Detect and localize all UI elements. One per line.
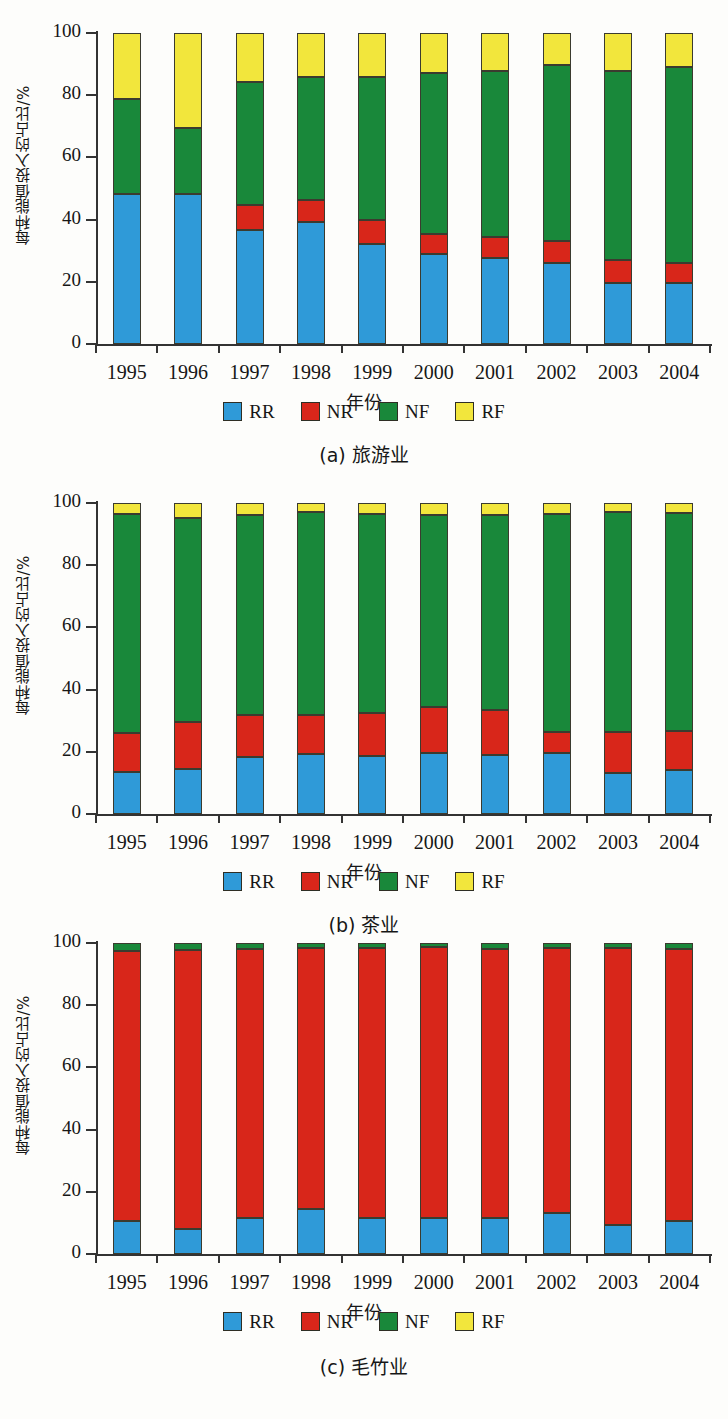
- x-tick: [279, 1254, 281, 1263]
- bar-1996: [174, 943, 202, 1254]
- bar-segment-nf: [665, 943, 693, 949]
- panel-tea: 每种能值投入的占比/% 0204060801001995199619971998…: [0, 470, 728, 940]
- x-tick-label: 2004: [644, 361, 714, 383]
- x-tick: [525, 1254, 527, 1263]
- bar-1999: [358, 943, 386, 1254]
- legend-item-rf: RF: [455, 402, 504, 421]
- bar-2001: [481, 943, 509, 1254]
- bar-segment-nr: [113, 733, 141, 772]
- legend-c: RRNRNFRF: [0, 1312, 728, 1331]
- bar-segment-nf: [420, 515, 448, 707]
- x-tick: [525, 814, 527, 823]
- bar-segment-nf: [113, 943, 141, 951]
- y-tick-label: 100: [53, 931, 82, 951]
- bar-segment-nf: [236, 515, 264, 715]
- bar-segment-rf: [604, 503, 632, 512]
- bar-segment-rr: [236, 230, 264, 344]
- y-tick-label: 100: [53, 491, 82, 511]
- bar-2001: [481, 503, 509, 814]
- bar-2000: [420, 33, 448, 344]
- bar-1995: [113, 943, 141, 1254]
- x-tick-label: 1995: [92, 1271, 162, 1293]
- bar-segment-rr: [174, 1229, 202, 1254]
- legend-b: RRNRNFRF: [0, 872, 728, 891]
- bar-segment-nr: [174, 722, 202, 769]
- bar-segment-rr: [236, 757, 264, 814]
- panel-tourism: 每种能值投入的占比/% 0204060801001995199619971998…: [0, 0, 728, 470]
- bar-segment-rf: [236, 503, 264, 515]
- bar-segment-nr: [420, 947, 448, 1218]
- bar-segment-nr: [297, 948, 325, 1209]
- bar-segment-nf: [358, 943, 386, 948]
- bar-segment-rr: [113, 194, 141, 344]
- y-axis-line: [96, 31, 98, 346]
- legend-item-rr: RR: [223, 402, 274, 421]
- bar-segment-nr: [481, 949, 509, 1218]
- legend-label: RR: [249, 402, 274, 421]
- y-tick-label: 60: [62, 145, 81, 165]
- y-tick: 80: [86, 564, 96, 566]
- bar-2004: [665, 503, 693, 814]
- x-tick: [341, 344, 343, 353]
- bar-segment-rf: [174, 33, 202, 128]
- x-tick-label: 2001: [460, 361, 530, 383]
- bar-segment-rr: [604, 773, 632, 814]
- y-axis-line: [96, 501, 98, 816]
- bar-segment-rr: [543, 753, 571, 814]
- x-tick: [525, 344, 527, 353]
- bar-segment-rr: [358, 244, 386, 344]
- bar-2001: [481, 33, 509, 344]
- y-tick: 40: [86, 219, 96, 221]
- y-tick-label: 20: [62, 740, 81, 760]
- y-tick: 60: [86, 156, 96, 158]
- plot-area-a: 每种能值投入的占比/% 0204060801001995199619971998…: [0, 0, 728, 370]
- x-tick: [463, 344, 465, 353]
- bar-2003: [604, 33, 632, 344]
- bar-1998: [297, 33, 325, 344]
- x-tick-label: 2000: [399, 831, 469, 853]
- bar-segment-rf: [236, 33, 264, 82]
- legend-label: NF: [405, 1312, 429, 1331]
- x-tick: [156, 344, 158, 353]
- bar-segment-rr: [174, 769, 202, 814]
- bar-segment-nf: [481, 71, 509, 237]
- bar-segment-nr: [604, 260, 632, 284]
- y-tick-label: 20: [62, 270, 81, 290]
- y-tick: 60: [86, 1066, 96, 1068]
- bar-segment-nf: [543, 65, 571, 241]
- bar-segment-nf: [113, 514, 141, 734]
- y-tick-label: 0: [72, 802, 82, 822]
- bar-segment-nf: [604, 71, 632, 260]
- y-tick-label: 60: [62, 615, 81, 635]
- bar-segment-rf: [174, 503, 202, 518]
- legend-item-rf: RF: [455, 872, 504, 891]
- bar-2000: [420, 943, 448, 1254]
- x-tick-label: 1996: [153, 831, 223, 853]
- x-tick-label: 1997: [215, 361, 285, 383]
- x-tick: [402, 814, 404, 823]
- bar-segment-rr: [665, 283, 693, 344]
- bar-segment-nr: [543, 241, 571, 262]
- x-tick: [95, 344, 97, 353]
- x-tick: [402, 344, 404, 353]
- bar-segment-rr: [420, 1218, 448, 1254]
- blue-square-swatch: [223, 1312, 242, 1331]
- legend-item-nr: NR: [301, 1312, 353, 1331]
- bar-segment-nf: [420, 73, 448, 234]
- bar-segment-rr: [481, 1218, 509, 1254]
- bar-segment-nf: [665, 513, 693, 731]
- bar-segment-nf: [297, 77, 325, 200]
- yellow-square-swatch: [455, 872, 474, 891]
- bar-segment-nf: [420, 943, 448, 947]
- bar-segment-nr: [543, 732, 571, 754]
- x-tick: [341, 1254, 343, 1263]
- bar-segment-rf: [543, 33, 571, 65]
- bar-segment-rf: [358, 503, 386, 514]
- bar-segment-rr: [358, 1218, 386, 1254]
- bar-segment-rf: [113, 33, 141, 99]
- bar-segment-nf: [543, 514, 571, 732]
- bar-segment-nr: [297, 715, 325, 753]
- bar-segment-nr: [297, 200, 325, 222]
- y-tick: 80: [86, 1004, 96, 1006]
- x-tick: [586, 814, 588, 823]
